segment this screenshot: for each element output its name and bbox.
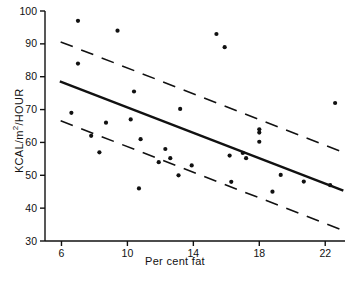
- data-point: [214, 32, 218, 36]
- y-tick-label: 70: [25, 103, 37, 115]
- data-point: [129, 117, 133, 121]
- regression-line-group: [60, 81, 344, 190]
- data-point: [132, 89, 136, 93]
- regression-line: [60, 81, 344, 190]
- data-point: [139, 137, 143, 141]
- y-tick-label: 40: [25, 202, 37, 214]
- scatter-plot-figure: 30405060708090100 610141822 Per cent fat…: [0, 0, 350, 281]
- y-tick-label: 60: [25, 136, 37, 148]
- data-point: [168, 156, 172, 160]
- data-point: [229, 180, 233, 184]
- data-point: [333, 101, 337, 105]
- data-point: [89, 134, 93, 138]
- y-axis-title-pre: KCAL/: [13, 140, 25, 173]
- data-point: [257, 140, 261, 144]
- data-point: [163, 147, 167, 151]
- data-point: [244, 156, 248, 160]
- y-tick-label: 50: [25, 169, 37, 181]
- data-point: [279, 173, 283, 177]
- y-axis-title-post: /HOUR: [13, 89, 25, 126]
- y-axis-title: KCAL/m2/HOUR: [11, 56, 25, 206]
- data-point: [97, 150, 101, 154]
- data-point-group: [69, 19, 337, 194]
- x-axis-title: Per cent fat: [0, 255, 350, 267]
- plot-canvas: 30405060708090100 610141822: [0, 0, 350, 281]
- data-point: [328, 183, 332, 187]
- data-point: [115, 29, 119, 33]
- y-tick-label: 30: [25, 235, 37, 247]
- data-point: [257, 130, 261, 134]
- data-point: [137, 186, 141, 190]
- data-point: [104, 121, 108, 125]
- y-tick-label: 90: [25, 37, 37, 49]
- y-tick-label: 80: [25, 70, 37, 82]
- data-point: [223, 45, 227, 49]
- data-point: [270, 190, 274, 194]
- data-point: [302, 179, 306, 183]
- y-axis-title-superscript: 2: [11, 126, 20, 131]
- y-tick-label: 100: [19, 5, 37, 17]
- axes-group: [45, 11, 345, 241]
- data-point: [190, 163, 194, 167]
- data-point: [228, 153, 232, 157]
- y-axis-title-unit: m: [13, 130, 25, 139]
- data-point: [69, 111, 73, 115]
- data-point: [76, 19, 80, 23]
- data-point: [178, 107, 182, 111]
- data-point: [176, 173, 180, 177]
- data-point: [157, 160, 161, 164]
- data-point: [241, 151, 245, 155]
- data-point: [76, 61, 80, 65]
